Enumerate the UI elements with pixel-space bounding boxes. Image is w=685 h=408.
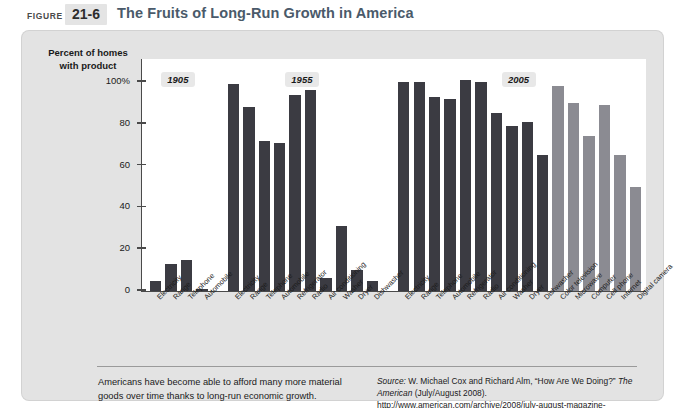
bar bbox=[259, 141, 270, 291]
y-tick-label: 60 bbox=[90, 159, 130, 170]
era-label-1955: 1955 bbox=[285, 72, 319, 87]
figure-header: FIGURE 21-6 The Fruits of Long-Run Growt… bbox=[0, 0, 685, 30]
figure-panel: Percent of homes with product 0204060801… bbox=[22, 31, 663, 400]
bar bbox=[305, 90, 316, 291]
y-axis-label: Percent of homes with product bbox=[40, 47, 136, 72]
y-tick-label: 100% bbox=[90, 75, 130, 86]
figure-number-box: 21-6 bbox=[65, 4, 107, 25]
y-tick-label: 40 bbox=[90, 200, 130, 211]
bar bbox=[274, 143, 285, 291]
y-tick-label: 20 bbox=[90, 242, 130, 253]
source-authors: W. Michael Cox and Richard Alm, “How Are… bbox=[406, 376, 618, 386]
bar bbox=[506, 126, 517, 291]
bar bbox=[289, 95, 300, 291]
bar bbox=[414, 82, 425, 291]
era-label-1905: 1905 bbox=[161, 72, 195, 87]
chart-plot-area: 020406080100% bbox=[141, 59, 646, 292]
page-title: The Fruits of Long-Run Growth in America bbox=[117, 5, 414, 21]
bar bbox=[475, 82, 486, 291]
bar bbox=[491, 113, 502, 291]
bar bbox=[568, 103, 579, 291]
bar bbox=[398, 82, 409, 291]
bar bbox=[614, 155, 625, 291]
figure-word: FIGURE bbox=[27, 11, 63, 21]
y-tick-label: 0 bbox=[90, 284, 130, 295]
y-tick-label: 80 bbox=[90, 117, 130, 128]
x-axis-labels: ElectricityRangeTelephoneAutomobileElect… bbox=[141, 293, 661, 355]
bar bbox=[552, 86, 563, 291]
bar bbox=[243, 107, 254, 291]
source-prefix: Source: bbox=[377, 376, 406, 386]
figure-caption: Americans have become able to afford man… bbox=[98, 376, 363, 403]
bar bbox=[429, 97, 440, 291]
bar bbox=[460, 80, 471, 291]
figure-number: 21-6 bbox=[65, 4, 107, 25]
figure-source: Source: W. Michael Cox and Richard Alm, … bbox=[377, 376, 647, 408]
footer-divider bbox=[97, 366, 637, 367]
bar-series bbox=[142, 60, 647, 291]
bar bbox=[599, 105, 610, 291]
bar bbox=[444, 99, 455, 291]
bar bbox=[228, 84, 239, 291]
bar bbox=[537, 155, 548, 291]
source-rest: (July/August 2008). http://www.american.… bbox=[377, 388, 606, 408]
era-label-2005: 2005 bbox=[502, 72, 536, 87]
